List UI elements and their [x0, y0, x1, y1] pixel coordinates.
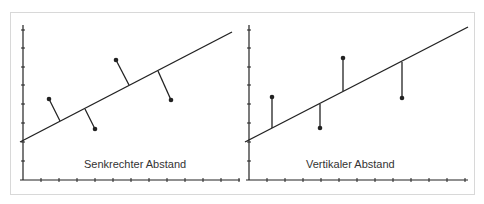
left-distance-segment: [85, 109, 95, 129]
left-data-point: [169, 98, 174, 103]
regression-distance-diagram: [0, 0, 484, 204]
left-data-point: [114, 58, 119, 63]
caption-left: Senkrechter Abstand: [84, 158, 186, 170]
left-distance-segment: [158, 71, 171, 100]
right-regression-line: [245, 27, 468, 142]
left-data-point: [93, 127, 98, 132]
left-distance-segment: [49, 99, 60, 121]
left-regression-line: [20, 32, 232, 142]
right-data-point: [341, 56, 346, 61]
left-data-point: [47, 97, 52, 102]
caption-right: Vertikaler Abstand: [306, 158, 395, 170]
left-distance-segment: [116, 60, 129, 85]
right-data-point: [400, 96, 405, 101]
right-data-point: [318, 126, 323, 131]
right-data-point: [270, 95, 275, 100]
